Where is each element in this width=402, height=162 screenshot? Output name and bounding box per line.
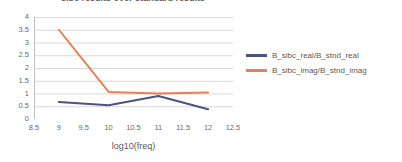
x-axis-tick-label: 12.5 bbox=[218, 124, 248, 132]
plot-area bbox=[34, 17, 233, 119]
y-axis-tick-label: 4 bbox=[0, 13, 29, 21]
data-series-line-0 bbox=[59, 96, 208, 109]
chart-legend: B_sibc_real/B_stnd_realB_sibc_imag/B_stn… bbox=[246, 48, 367, 78]
y-axis-tick-label: 0 bbox=[0, 115, 29, 123]
y-axis-tick-label: 3 bbox=[0, 39, 29, 47]
y-axis-tick-label: 1 bbox=[0, 90, 29, 98]
y-axis-tick-label: 1.5 bbox=[0, 77, 29, 85]
data-series-line-1 bbox=[59, 30, 208, 94]
x-axis-title: log10(freq) bbox=[34, 141, 233, 151]
y-axis-tick-label: 0.5 bbox=[0, 102, 29, 110]
legend-item-label: B_sibc_real/B_stnd_real bbox=[272, 51, 359, 60]
legend-color-swatch bbox=[246, 54, 267, 57]
chart-container: sibc results over standard results 00.51… bbox=[0, 0, 402, 162]
legend-item[interactable]: B_sibc_imag/B_stnd_imag bbox=[246, 63, 367, 78]
y-axis-tick-label: 3.5 bbox=[0, 26, 29, 34]
y-axis-tick-label: 2 bbox=[0, 64, 29, 72]
legend-color-swatch bbox=[246, 69, 267, 72]
legend-item-label: B_sibc_imag/B_stnd_imag bbox=[272, 66, 367, 75]
y-axis-tick-label: 2.5 bbox=[0, 51, 29, 59]
legend-item[interactable]: B_sibc_real/B_stnd_real bbox=[246, 48, 367, 63]
plot-svg bbox=[34, 17, 233, 119]
